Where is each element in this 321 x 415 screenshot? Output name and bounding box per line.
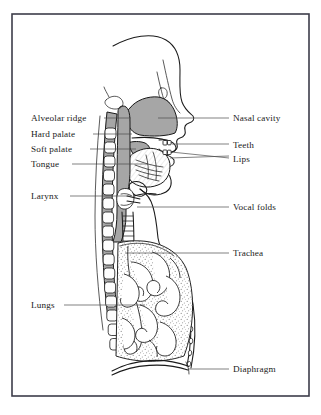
label-group-left: Alveolar ridge Hard palate Soft palate T… (31, 113, 86, 310)
teeth-group (163, 141, 171, 155)
label-lungs: Lungs (31, 300, 55, 310)
label-diaphragm: Diaphragm (233, 364, 276, 374)
styloid-process (104, 87, 109, 97)
label-group-right: Nasal cavity Teeth Lips Vocal folds Trac… (233, 113, 281, 374)
label-soft-palate: Soft palate (31, 144, 72, 154)
figure-caption: The vocal tract (12, 406, 72, 408)
label-tongue: Tongue (31, 159, 59, 169)
label-larynx: Larynx (31, 191, 59, 201)
label-teeth: Teeth (233, 140, 254, 150)
diagram-body: Alveolar ridge Hard palate Soft palate T… (31, 36, 281, 375)
label-lips: Lips (233, 154, 250, 164)
label-vocal-folds: Vocal folds (233, 202, 276, 212)
label-trachea: Trachea (233, 248, 263, 258)
anatomical-diagram: Alveolar ridge Hard palate Soft palate T… (0, 0, 321, 415)
label-hard-palate: Hard palate (31, 129, 75, 139)
diaphragm-arc (112, 360, 188, 375)
caption-clip: The vocal tract (0, 406, 321, 415)
label-nasal-cavity: Nasal cavity (233, 113, 281, 123)
larynx-group (117, 188, 140, 209)
vocal-tract-figure: Alveolar ridge Hard palate Soft palate T… (0, 0, 321, 415)
nasal-cavity-region (127, 97, 178, 136)
label-alveolar-ridge: Alveolar ridge (31, 113, 86, 123)
